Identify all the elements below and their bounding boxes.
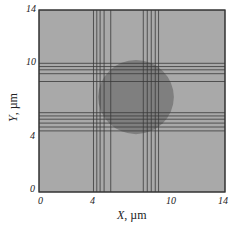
- x-tick-10: 10: [166, 196, 176, 206]
- y-tick-4: 4: [30, 131, 35, 141]
- figure: 14 10 4 0 0 4 10 14 X, µm Y, µm: [0, 0, 237, 228]
- x-tick-14: 14: [218, 196, 228, 206]
- y-tick-10: 10: [26, 57, 36, 67]
- y-tick-0: 0: [30, 184, 35, 194]
- y-tick-14: 14: [26, 4, 36, 14]
- x-tick-0: 0: [38, 196, 43, 206]
- plot-area: [0, 0, 237, 228]
- y-axis-variable: Y: [6, 115, 20, 122]
- y-axis-unit: , µm: [6, 93, 20, 115]
- y-axis-label: Y, µm: [6, 93, 21, 122]
- x-tick-4: 4: [90, 196, 95, 206]
- x-axis-label: X, µm: [117, 208, 147, 223]
- x-axis-unit: , µm: [124, 208, 146, 222]
